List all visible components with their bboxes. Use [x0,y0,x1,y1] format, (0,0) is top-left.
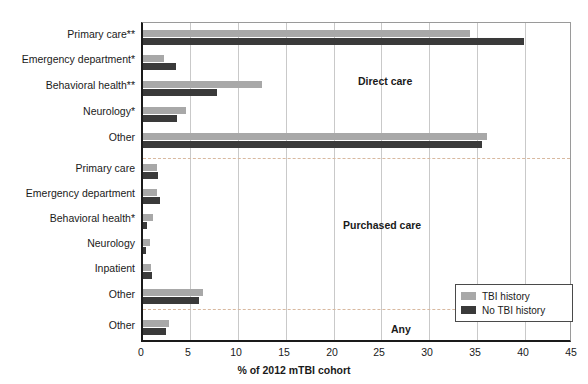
legend-label-no-tbi-history: No TBI history [482,305,545,316]
bar-purchased-neurology-no-tbi [143,247,146,254]
y-label-direct-other: Other [0,131,135,143]
bar-purchased-primary-care-tbi [143,164,157,171]
bar-direct-neurology-no-tbi [143,115,177,122]
legend-swatch-icon-no-tbi-history [461,306,476,314]
bar-purchased-inpatient-tbi [143,264,151,271]
bar-direct-other-no-tbi [143,141,482,148]
x-tick-35: 35 [460,346,490,358]
x-tick-30: 30 [412,346,442,358]
y-label-purchased-other: Other [0,288,135,300]
x-tick-0: 0 [126,346,156,358]
y-label-purchased-primary-care: Primary care [0,162,135,174]
x-tick-25: 25 [364,346,394,358]
gridline-30 [429,23,430,340]
legend-label-tbi-history: TBI history [482,291,530,302]
bar-purchased-emergency-no-tbi [143,197,160,204]
x-tick-5: 5 [173,346,203,358]
y-label-purchased-behavioral-health: Behavioral health* [0,212,135,224]
group-separator-1 [143,158,570,159]
bar-direct-behavioral-health-tbi [143,81,262,88]
y-label-purchased-neurology: Neurology [0,237,135,249]
y-label-any-other: Other [0,319,135,331]
chart-title [0,0,588,3]
legend: TBI history No TBI history [455,284,573,322]
bar-direct-other-tbi [143,133,487,140]
gridline-15 [286,23,287,340]
group-label-direct-care: Direct care [358,75,412,87]
group-label-any: Any [391,323,411,335]
bar-purchased-other-no-tbi [143,297,199,304]
bar-purchased-behavioral-health-tbi [143,214,153,221]
y-label-purchased-inpatient: Inpatient [0,262,135,274]
x-tick-10: 10 [221,346,251,358]
y-label-direct-neurology: Neurology* [0,105,135,117]
y-label-purchased-emergency: Emergency department [0,187,135,199]
bar-purchased-primary-care-no-tbi [143,172,158,179]
x-tick-15: 15 [269,346,299,358]
bar-direct-behavioral-health-no-tbi [143,89,217,96]
bar-purchased-emergency-tbi [143,189,157,196]
bar-direct-emergency-no-tbi [143,63,176,70]
bar-direct-primary-care-no-tbi [143,38,524,45]
bar-direct-primary-care-tbi [143,30,470,37]
group-label-purchased-care: Purchased care [343,219,421,231]
x-axis-title: % of 2012 mTBI cohort [0,364,588,376]
gridline-25 [381,23,382,340]
bar-any-other-no-tbi [143,328,166,335]
y-label-direct-primary-care: Primary care** [0,28,135,40]
bar-direct-emergency-tbi [143,55,164,62]
x-tick-20: 20 [317,346,347,358]
legend-item-no-tbi-history: No TBI history [461,303,567,317]
y-label-direct-behavioral-health: Behavioral health** [0,79,135,91]
y-label-direct-emergency: Emergency department* [0,53,135,65]
bar-purchased-inpatient-no-tbi [143,272,152,279]
bar-any-other-tbi [143,320,169,327]
legend-swatch-icon-tbi-history [461,292,476,300]
legend-item-tbi-history: TBI history [461,289,567,303]
gridline-20 [334,23,335,340]
bar-purchased-other-tbi [143,289,203,296]
bar-chart: Direct care Purchased care Any TBI histo… [0,0,588,384]
plot-area: Direct care Purchased care Any TBI histo… [141,22,571,342]
bar-purchased-behavioral-health-no-tbi [143,222,147,229]
x-tick-45: 45 [556,346,586,358]
bar-direct-neurology-tbi [143,107,186,114]
gridline-10 [238,23,239,340]
bar-purchased-neurology-tbi [143,239,150,246]
x-tick-40: 40 [508,346,538,358]
